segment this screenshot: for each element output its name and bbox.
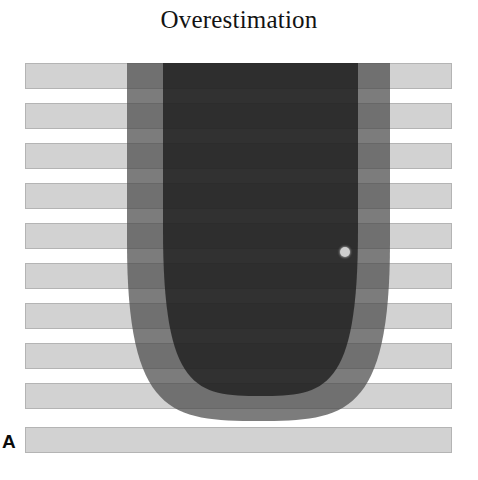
figure-root: Overestimation A [0,0,478,480]
stripe-bar [25,383,452,409]
stripe-bar [25,103,452,129]
stripe-bar [25,183,452,209]
stripe-bar [25,343,452,369]
stripe-bar [25,427,452,453]
stripe-bar [25,143,452,169]
stripe-bar [25,223,452,249]
stripe-bar [25,63,452,89]
stripe-bar [25,263,452,289]
plot-area [0,0,478,480]
dot-marker [340,247,350,257]
stripe-bar [25,303,452,329]
